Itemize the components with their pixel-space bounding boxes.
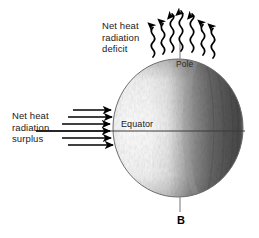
- pole-label: Pole: [176, 59, 193, 71]
- deficit-arrow-3: [170, 14, 174, 52]
- panel-label-b: B: [177, 215, 185, 227]
- equator-label: Equator: [121, 119, 153, 131]
- deficit-arrow-2: [161, 24, 164, 54]
- deficit-arrow-6: [201, 25, 204, 55]
- deficit-arrow-5: [190, 14, 194, 52]
- deficit-arrow-7: [211, 28, 214, 58]
- radiation-deficit-arrows: [151, 11, 214, 58]
- deficit-arrow-1: [151, 27, 154, 57]
- radiation-balance-figure: Net heat radiation deficit Net heat radi…: [0, 0, 259, 238]
- net-heat-radiation-deficit-label: Net heat radiation deficit: [102, 20, 139, 55]
- net-heat-radiation-surplus-label: Net heat radiation surplus: [12, 110, 49, 145]
